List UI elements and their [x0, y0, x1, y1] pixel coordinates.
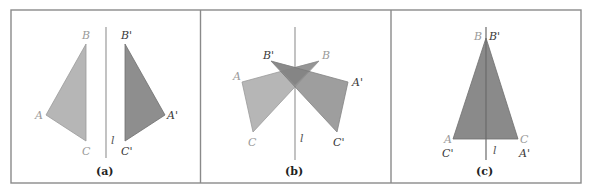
label-a: A	[443, 133, 452, 146]
caption-b: (b)	[285, 165, 303, 178]
label-b-prime: B'	[120, 29, 132, 42]
reflection-figure: B A C B' A' C' l (a) B A C B' A' C' l (b…	[0, 0, 591, 196]
triangle-abc	[46, 44, 86, 141]
caption-a: (a)	[96, 165, 114, 178]
label-a-prime: A'	[166, 109, 178, 122]
label-b: B	[81, 29, 90, 42]
label-line-l: l	[493, 144, 497, 157]
label-c: C	[82, 145, 91, 158]
label-line-l: l	[111, 134, 115, 147]
label-b: B	[321, 49, 330, 62]
label-line-l: l	[300, 132, 304, 145]
panel-b: B A C B' A' C' l (b)	[232, 27, 363, 178]
label-c-prime: C'	[121, 145, 132, 158]
label-c-prime: C'	[333, 136, 344, 149]
label-b-prime: B'	[488, 30, 500, 43]
label-a: A	[34, 109, 43, 122]
panel-a: B A C B' A' C' l (a)	[34, 27, 178, 178]
label-a-prime: A'	[351, 76, 363, 89]
triangle-abc-prime	[125, 44, 165, 141]
label-b-prime: B'	[262, 49, 274, 62]
label-b: B	[473, 30, 482, 43]
caption-c: (c)	[476, 165, 493, 178]
label-c-prime: C'	[442, 147, 453, 160]
label-c: C	[520, 133, 529, 146]
label-a-prime: A'	[518, 147, 530, 160]
panel-c: B B' A C' C A' l (c)	[442, 27, 530, 178]
label-c: C	[248, 136, 257, 149]
label-a: A	[232, 70, 241, 83]
